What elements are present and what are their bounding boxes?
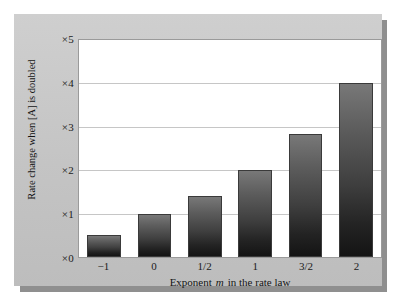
- x-tick-label: 0: [137, 260, 171, 272]
- x-tick-label: 2: [340, 260, 374, 272]
- bar: [339, 83, 373, 257]
- y-tick-label: ×1: [62, 208, 74, 220]
- x-axis-title-prefix: Exponent: [170, 276, 212, 288]
- x-axis-tick-labels: −1 0 1/2 1 3/2 2: [78, 260, 382, 276]
- x-axis-title: Exponentmin the rate law: [78, 276, 382, 288]
- y-tick-label: ×4: [62, 77, 74, 89]
- bar: [188, 196, 222, 257]
- bar: [138, 214, 172, 257]
- bar: [238, 170, 272, 257]
- bars-layer: [79, 40, 381, 257]
- chart-panel: Rate change when [A] is doubled ×5 ×4 ×3…: [14, 14, 382, 286]
- bar: [289, 134, 323, 257]
- y-tick-label: ×5: [62, 33, 74, 45]
- x-axis-title-suffix: in the rate law: [228, 276, 291, 288]
- x-tick-label: 3/2: [289, 260, 323, 272]
- y-axis-tick-labels: ×5 ×4 ×3 ×2 ×1 ×0: [34, 39, 76, 258]
- x-axis-title-variable: m: [216, 276, 224, 288]
- bar: [87, 235, 121, 257]
- x-tick-label: 1: [238, 260, 272, 272]
- y-tick-label: ×3: [62, 121, 74, 133]
- plot-area: [78, 39, 382, 258]
- x-tick-label: 1/2: [188, 260, 222, 272]
- y-tick-label: ×2: [62, 164, 74, 176]
- x-tick-label: −1: [86, 260, 120, 272]
- figure-root: Rate change when [A] is doubled ×5 ×4 ×3…: [0, 0, 398, 302]
- y-tick-label: ×0: [62, 252, 74, 264]
